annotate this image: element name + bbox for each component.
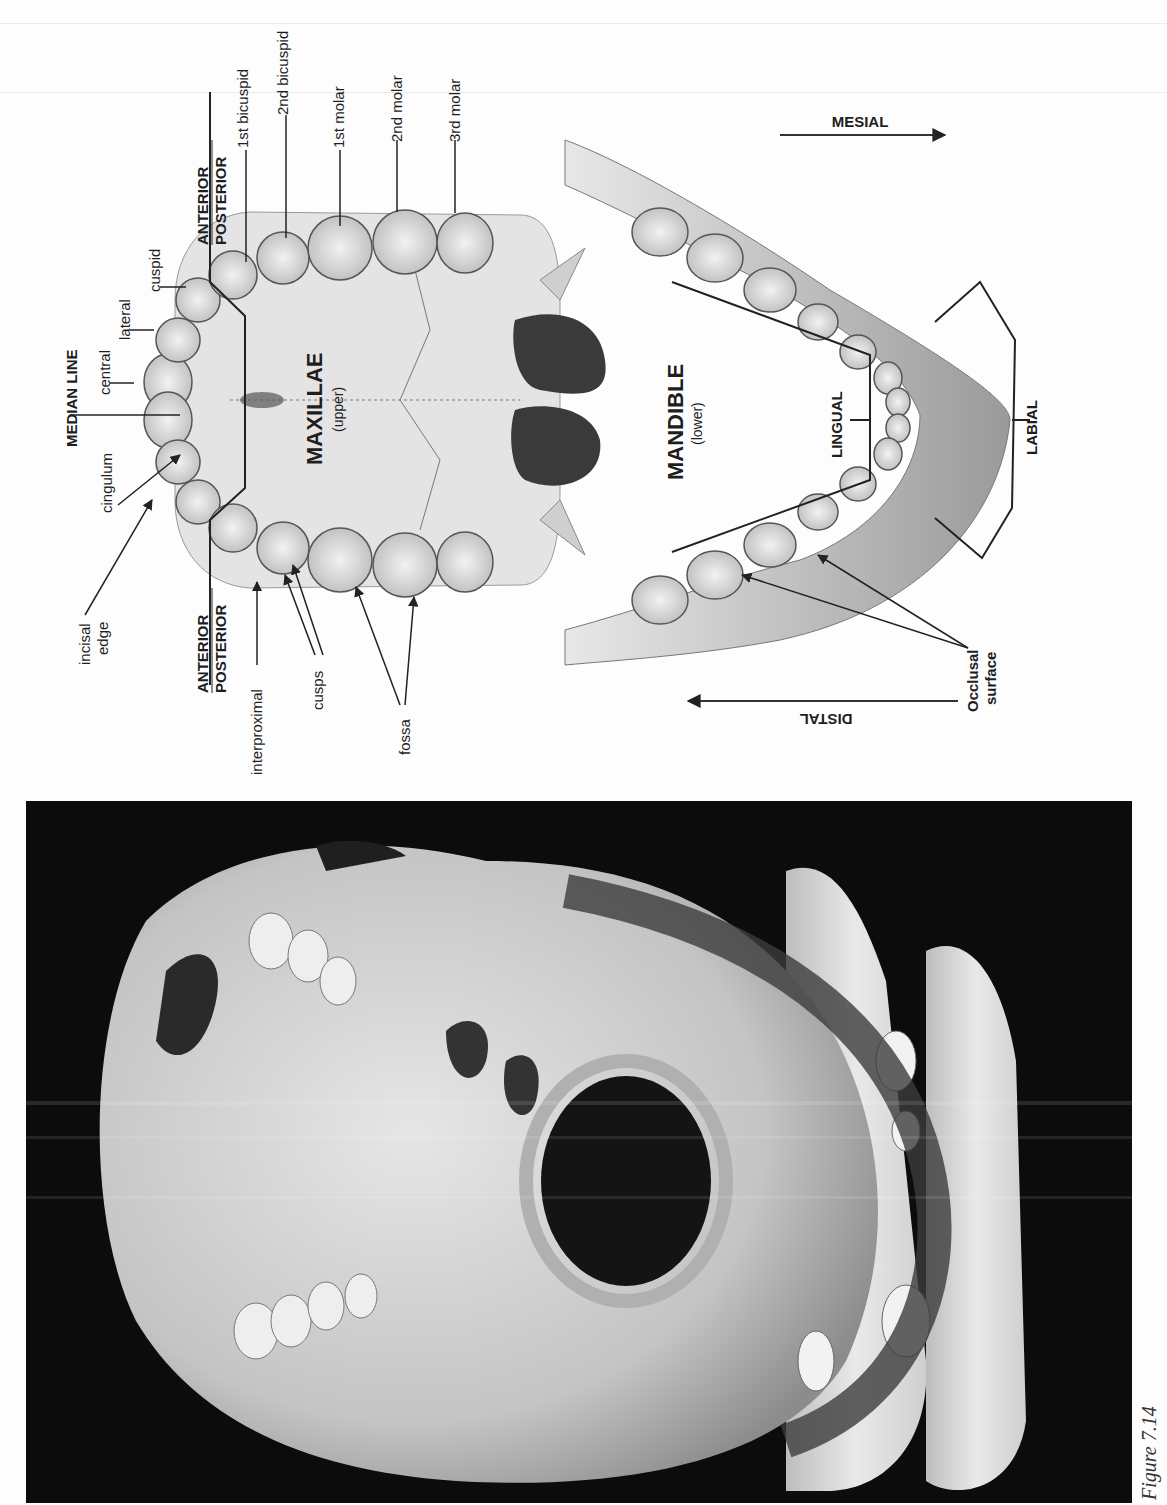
mesial-label: MESIAL — [832, 113, 889, 130]
cingulum-label: cingulum — [98, 453, 115, 513]
lateral-label: lateral — [116, 299, 133, 340]
mandible-title: MANDIBLE — [663, 364, 688, 480]
distal-label: DISTAL — [799, 711, 852, 728]
lower-anterior-label: ANTERIOR — [194, 615, 211, 694]
mandible-arch — [565, 140, 1010, 665]
maxillae-title: MAXILLAE — [302, 353, 327, 465]
cuspid-label: cuspid — [146, 249, 163, 292]
dental-anatomy-diagram: MEDIAN LINE central lateral cuspid cingu… — [0, 0, 1167, 790]
first-bicuspid-label: 1st bicuspid — [234, 69, 251, 148]
interproximal-label: interproximal — [248, 689, 265, 775]
central-label: central — [96, 350, 113, 395]
third-molar-label: 3rd molar — [446, 79, 463, 142]
fossa-label: fossa — [396, 718, 413, 755]
lower-posterior-label: POSTERIOR — [212, 604, 229, 693]
skull-illustration — [26, 801, 1132, 1503]
first-molar-label: 1st molar — [330, 86, 347, 148]
median-line-label: MEDIAN LINE — [63, 350, 80, 448]
second-molar-label: 2nd molar — [388, 75, 405, 142]
textbook-page: MEDIAN LINE central lateral cuspid cingu… — [0, 0, 1167, 1505]
maxillae-subtitle: (upper) — [330, 387, 346, 432]
skull-photograph — [26, 801, 1132, 1503]
occlusal-surface-label-line1: Occlusal — [964, 649, 981, 712]
second-bicuspid-label: 2nd bicuspid — [274, 31, 291, 115]
lingual-label: LINGUAL — [828, 391, 845, 458]
upper-anterior-label: ANTERIOR — [194, 167, 211, 246]
mandible-subtitle: (lower) — [689, 402, 705, 445]
occlusal-surface-label-line2: surface — [982, 652, 999, 705]
cusps-label: cusps — [309, 671, 326, 710]
upper-posterior-label: POSTERIOR — [212, 156, 229, 245]
incisal-edge-label-line2: edge — [94, 622, 111, 655]
figure-caption: Figure 7.14 — [1138, 1406, 1161, 1500]
incisal-edge-label-line1: incisal — [76, 623, 93, 665]
labial-label: LABIAL — [1023, 400, 1040, 455]
